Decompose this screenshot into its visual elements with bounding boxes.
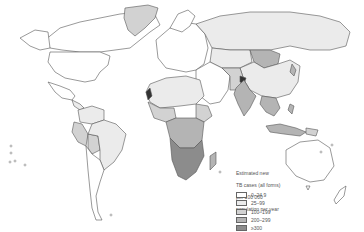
legend-label: 0–24.9 <box>251 192 266 198</box>
legend-item-300-plus: ≥300 <box>236 224 283 232</box>
legend-title-line: TB cases (all forms) <box>236 182 296 188</box>
region-usa <box>48 52 110 82</box>
legend-swatch <box>236 192 247 198</box>
legend-item-200-299: 200–299 <box>236 216 283 224</box>
world-map <box>0 0 364 232</box>
region-mexico <box>48 82 75 100</box>
legend-item-100-199: 100–199 <box>236 208 283 216</box>
region-tasmania <box>306 186 310 190</box>
island-marker <box>320 151 322 153</box>
island-marker <box>331 144 333 146</box>
legend-swatch <box>236 217 247 223</box>
legend-label: ≥300 <box>251 225 262 231</box>
legend-items: 0–24.9 25–99 100–199 200–299 ≥300 No dat… <box>236 191 283 232</box>
legend-swatch <box>236 225 247 231</box>
legend-swatch <box>236 209 247 215</box>
region-madagascar <box>210 152 216 170</box>
island-marker <box>9 161 11 163</box>
legend-label: 100–199 <box>251 209 270 215</box>
region-alaska <box>20 30 50 50</box>
region-north-africa <box>146 76 204 108</box>
island-marker <box>10 145 12 147</box>
island-marker <box>14 160 16 162</box>
legend-title-line: Estimated new <box>236 170 296 176</box>
region-philippines <box>288 104 294 114</box>
region-indonesia <box>266 124 306 136</box>
region-new-zealand <box>334 186 346 204</box>
region-southeast-asia <box>260 96 280 116</box>
island-marker <box>110 214 112 216</box>
island-marker <box>219 171 221 173</box>
region-russia <box>196 12 350 50</box>
region-png <box>306 128 318 136</box>
legend-label: 200–299 <box>251 217 270 223</box>
island-marker <box>10 152 12 154</box>
legend-label: 25–99 <box>251 200 265 206</box>
region-peru <box>72 122 88 146</box>
legend-item-25-99: 25–99 <box>236 199 283 207</box>
legend-item-0-24: 0–24.9 <box>236 191 283 199</box>
legend-swatch <box>236 200 247 206</box>
island-marker <box>24 164 26 166</box>
